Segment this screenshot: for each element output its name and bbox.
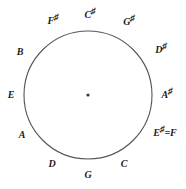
sharp-icon: ♯ <box>91 6 96 16</box>
note-a-label: A <box>19 130 26 140</box>
note-f-sharp-label: F♯ <box>47 16 58 26</box>
note-d-sharp-label: D♯ <box>155 45 167 55</box>
sharp-icon: ♯ <box>54 12 59 22</box>
sharp-icon: ♯ <box>162 41 167 51</box>
note-letter: D <box>48 158 55 169</box>
note-letter: A <box>19 129 26 140</box>
note-letter: G <box>84 169 91 180</box>
note-b-label: B <box>17 47 24 57</box>
note-e-label: E <box>8 90 15 100</box>
circle-graphic <box>0 0 186 189</box>
note-letter: E <box>8 89 15 100</box>
note-letter: F <box>47 15 54 26</box>
note-a-sharp-label: A♯ <box>161 90 172 100</box>
note-c-label: C <box>121 159 128 169</box>
sharp-icon: ♯ <box>168 86 173 96</box>
sharp-icon: ♯ <box>130 13 135 23</box>
note-letter: C <box>121 158 128 169</box>
center-point <box>86 93 89 96</box>
enharmonic-equivalence: =F <box>164 127 176 138</box>
note-letter: B <box>17 46 24 57</box>
note-letter: A <box>161 89 168 100</box>
note-letter: E <box>153 127 160 138</box>
note-e-sharp-f-label: E♯=F <box>153 128 177 138</box>
note-c-sharp-label: C♯ <box>84 10 95 20</box>
note-g-label: G <box>84 170 91 180</box>
chromatic-circle-diagram: C♯G♯D♯A♯E♯=FCGDAEBF♯ <box>0 0 186 189</box>
note-g-sharp-label: G♯ <box>123 17 135 27</box>
note-d-label: D <box>48 159 55 169</box>
note-letter: C <box>84 9 91 20</box>
